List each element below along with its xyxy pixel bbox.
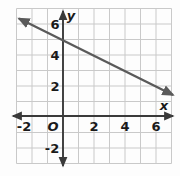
coordinate-plane-svg: -2 2 4 6 6 4 2 -2 O y x [0, 0, 180, 176]
x-axis-label: x [159, 98, 169, 113]
y-axis-label: y [67, 8, 76, 23]
x-tick-label-2: 2 [89, 119, 98, 134]
line-segment [19, 19, 173, 96]
x-tick-label-neg2: -2 [17, 119, 31, 134]
y-tick-label-6: 6 [50, 17, 59, 32]
grid-lines [17, 9, 172, 164]
coordinate-plane-figure: -2 2 4 6 6 4 2 -2 O y x [0, 0, 180, 176]
y-tick-label-2: 2 [50, 79, 59, 94]
x-tick-label-4: 4 [120, 119, 129, 134]
x-tick-label-6: 6 [151, 119, 160, 134]
y-tick-label-neg2: -2 [45, 141, 59, 156]
y-tick-label-4: 4 [50, 48, 59, 63]
axis-lines [13, 11, 173, 166]
plotted-line [19, 19, 173, 96]
origin-label: O [47, 119, 58, 134]
